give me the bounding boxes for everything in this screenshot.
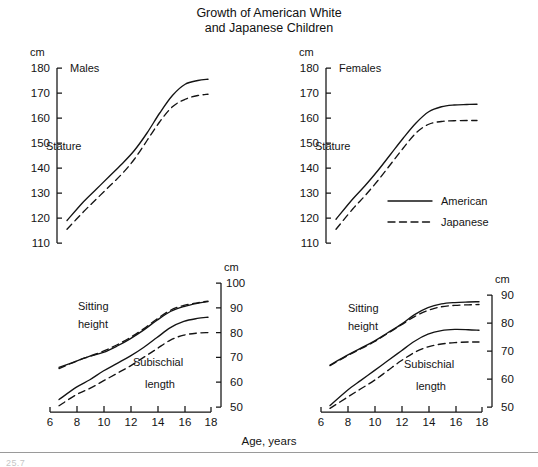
females-stature-measure-label: Stature (315, 140, 350, 152)
males-segments-x-tick-labels: 6 8 10 12 14 16 18 (47, 416, 218, 428)
x-axis-label: Age, years (242, 435, 297, 447)
y-tick-50: 50 (501, 401, 514, 413)
females-segments-x-axis: 6 8 10 12 14 16 18 (318, 406, 489, 428)
females-stature-y-tick-labels: 180 170 160 150 140 130 120 110 (300, 62, 319, 249)
legend-label-american: American (441, 195, 487, 207)
males-segments-sitting-height-label-line1: Sitting (78, 300, 109, 312)
females-segments-sitting-height-label-line2: height (348, 320, 378, 332)
curve-males-segments-3 (59, 333, 208, 406)
x-tick-14: 14 (423, 416, 436, 428)
males-segments-sitting-height-label-line2: height (78, 318, 108, 330)
growth-chart-figure: Growth of American White and Japanese Ch… (0, 0, 538, 467)
x-tick-16: 16 (179, 416, 192, 428)
y-tick-130: 130 (300, 187, 319, 199)
males-segments-subischial-label-line1: Subischial (133, 356, 183, 368)
y-tick-50: 50 (230, 401, 243, 413)
caption-number: 25.7 (6, 458, 538, 467)
legend-label-japanese: Japanese (441, 216, 489, 228)
females-segments-subischial-label-line2: length (416, 380, 446, 392)
y-tick-140: 140 (31, 162, 50, 174)
x-tick-6: 6 (318, 416, 324, 428)
females-segments-unit-label: cm (495, 273, 510, 285)
y-tick-120: 120 (31, 212, 50, 224)
y-tick-170: 170 (300, 87, 319, 99)
x-tick-14: 14 (152, 416, 165, 428)
y-tick-80: 80 (501, 317, 514, 329)
x-tick-16: 16 (450, 416, 463, 428)
males-segments-subischial-label-line2: length (145, 378, 175, 390)
y-tick-160: 160 (31, 112, 50, 124)
curve-females-stature-1 (336, 120, 477, 229)
x-tick-12: 12 (396, 416, 409, 428)
y-tick-160: 160 (300, 112, 319, 124)
females-segments-y-axis: 90 80 70 60 50 (487, 289, 514, 413)
females-stature-group-label: Females (339, 62, 382, 74)
y-tick-100: 100 (226, 277, 245, 289)
panel-males-stature: cm Males Stature 180 170 160 150 140 130… (30, 46, 208, 249)
x-tick-12: 12 (125, 416, 138, 428)
chart-canvas: cm Males Stature 180 170 160 150 140 130… (0, 0, 538, 452)
y-tick-90: 90 (501, 289, 514, 301)
females-segments-x-tick-labels: 6 8 10 12 14 16 18 (318, 416, 489, 428)
x-tick-8: 8 (345, 416, 351, 428)
y-tick-110: 110 (301, 237, 319, 249)
legend: American Japanese (388, 195, 489, 228)
y-tick-180: 180 (31, 62, 50, 74)
y-tick-70: 70 (501, 345, 514, 357)
y-tick-110: 110 (32, 237, 50, 249)
males-segments-y-tick-labels: 100 90 80 70 60 50 (226, 277, 245, 413)
x-tick-6: 6 (47, 416, 53, 428)
males-segments-y-axis: 100 90 80 70 60 50 (216, 277, 245, 413)
y-tick-80: 80 (230, 327, 243, 339)
y-tick-130: 130 (31, 187, 50, 199)
panel-females-segments: cm Sitting height Subischial length 90 8… (318, 273, 514, 428)
males-stature-y-axis: 180 170 160 150 140 130 120 110 (31, 62, 62, 249)
males-segments-x-axis: 6 8 10 12 14 16 18 (47, 406, 218, 428)
females-stature-y-axis: 180 170 160 150 140 130 120 110 (300, 62, 331, 249)
y-tick-60: 60 (501, 373, 514, 385)
panel-females-stature: cm Females Stature 180 170 160 150 140 1… (299, 46, 489, 249)
y-tick-90: 90 (230, 302, 243, 314)
x-tick-18: 18 (205, 416, 218, 428)
panel-males-segments: cm Sitting height Subischial length 100 … (47, 261, 245, 428)
x-tick-18: 18 (476, 416, 489, 428)
y-tick-60: 60 (230, 376, 243, 388)
x-tick-10: 10 (98, 416, 111, 428)
females-segments-sitting-height-label-line1: Sitting (348, 302, 379, 314)
curve-males-stature-1 (67, 94, 208, 229)
males-stature-group-label: Males (70, 62, 100, 74)
x-tick-10: 10 (369, 416, 382, 428)
y-tick-180: 180 (300, 62, 319, 74)
males-segments-unit-label: cm (224, 261, 239, 273)
y-tick-140: 140 (300, 162, 319, 174)
figure-caption-clipped: 25.7 (0, 458, 538, 467)
males-stature-measure-label: Stature (46, 140, 81, 152)
males-stature-y-tick-labels: 180 170 160 150 140 130 120 110 (31, 62, 50, 249)
females-segments-subischial-label-line1: Subischial (404, 358, 454, 370)
females-segments-y-tick-labels: 90 80 70 60 50 (501, 289, 514, 413)
y-tick-150: 150 (31, 137, 50, 149)
y-tick-170: 170 (31, 87, 50, 99)
y-tick-150: 150 (300, 137, 319, 149)
curve-males-stature-0 (67, 79, 208, 220)
footer-divider (0, 452, 538, 453)
y-tick-70: 70 (230, 351, 243, 363)
males-stature-unit-label: cm (30, 46, 45, 58)
females-stature-unit-label: cm (299, 46, 314, 58)
y-tick-120: 120 (300, 212, 319, 224)
x-tick-8: 8 (74, 416, 80, 428)
